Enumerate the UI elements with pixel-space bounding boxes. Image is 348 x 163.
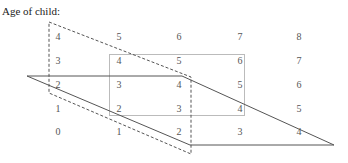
grid-cell: 5 — [238, 79, 243, 90]
grid-cell: 5 — [177, 55, 182, 66]
grid-cell: 3 — [56, 55, 61, 66]
grid-cell: 1 — [117, 126, 122, 137]
grid-cell: 3 — [117, 79, 122, 90]
grid-cell: 5 — [117, 31, 122, 42]
grid-cell: 2 — [117, 103, 122, 114]
grid-cell: 6 — [177, 31, 182, 42]
grid-cell: 7 — [238, 31, 243, 42]
age-lexis-diagram: 4 5 6 7 8 3 4 5 6 7 2 3 4 5 6 1 2 3 4 5 … — [0, 0, 348, 163]
grid-cell: 8 — [297, 31, 302, 42]
grid-cell: 1 — [56, 103, 61, 114]
age-number-grid: 4 5 6 7 8 3 4 5 6 7 2 3 4 5 6 1 2 3 4 5 … — [56, 31, 302, 137]
grid-cell: 4 — [238, 103, 243, 114]
grid-cell: 3 — [238, 126, 243, 137]
grid-cell: 2 — [56, 79, 61, 90]
grid-cell: 5 — [297, 103, 302, 114]
grid-cell: 4 — [117, 55, 122, 66]
grid-cell: 2 — [177, 126, 182, 137]
grid-cell: 4 — [56, 31, 61, 42]
grid-cell: 6 — [238, 55, 243, 66]
grid-cell: 4 — [177, 79, 182, 90]
grid-cell: 4 — [297, 126, 302, 137]
grid-cell: 7 — [297, 55, 302, 66]
grid-cell: 3 — [177, 103, 182, 114]
grid-cell: 6 — [297, 79, 302, 90]
grid-cell: 0 — [56, 126, 61, 137]
